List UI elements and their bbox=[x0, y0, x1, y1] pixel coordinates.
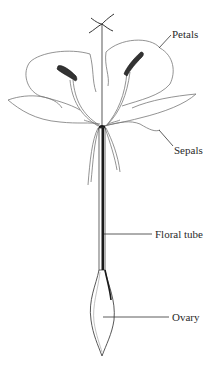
label-petals: Petals bbox=[172, 29, 198, 40]
petal-left-lower-2 bbox=[8, 100, 100, 124]
leader-petals bbox=[159, 35, 171, 48]
leader-sepals bbox=[159, 130, 173, 146]
stamens bbox=[70, 72, 130, 126]
petal-left-inner bbox=[90, 54, 96, 92]
petal-right-inner bbox=[106, 52, 109, 86]
label-floral-tube: Floral tube bbox=[155, 229, 203, 240]
label-ovary: Ovary bbox=[172, 312, 200, 323]
sepal-right-down-2 bbox=[105, 128, 117, 170]
petal-right bbox=[106, 40, 173, 106]
petal-left bbox=[26, 51, 90, 110]
floral-tube bbox=[99, 128, 105, 270]
leader-lines bbox=[103, 35, 173, 317]
sepals bbox=[84, 120, 160, 185]
sepal-right bbox=[104, 122, 160, 131]
anther-left bbox=[57, 66, 77, 81]
label-sepals: Sepals bbox=[174, 145, 203, 156]
anthers bbox=[57, 52, 143, 81]
ovary bbox=[90, 270, 114, 356]
anther-right bbox=[124, 52, 143, 76]
sepal-right-down bbox=[106, 128, 120, 172]
